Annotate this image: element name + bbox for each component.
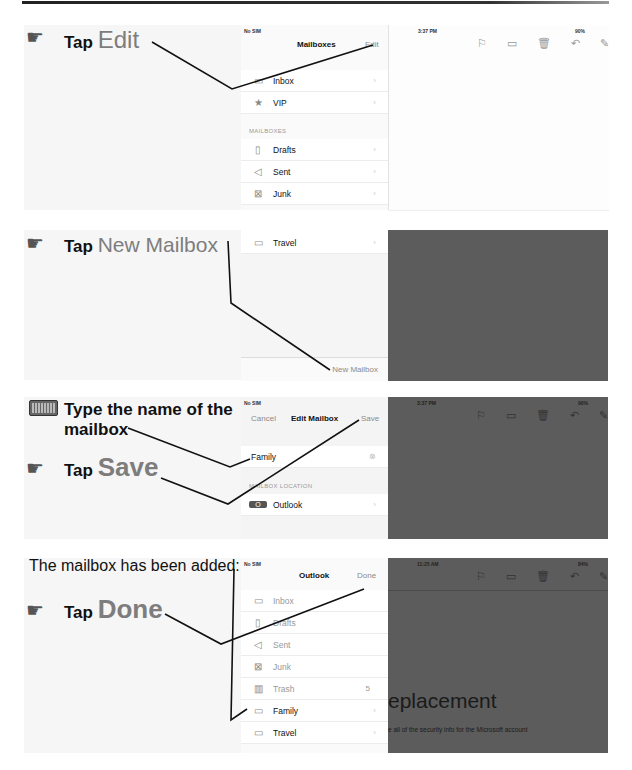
mailboxes-sidebar: No SIM Mailboxes Edit ▭Inbox› ★VIP› MAIL… [241, 25, 389, 210]
new-mailbox-button[interactable]: New Mailbox [332, 365, 378, 374]
inbox-icon: ▭ [249, 75, 267, 86]
outlook-icon: O [249, 501, 267, 508]
folder-icon[interactable]: ▭ [507, 37, 517, 50]
edit-button[interactable]: Edit [365, 40, 379, 49]
compose-icon[interactable]: ✎ [600, 37, 609, 50]
mailbox-row-junk[interactable]: ⊠Junk› [241, 183, 388, 205]
reply-icon: ↶ [570, 409, 579, 422]
dimmed-pane [388, 230, 608, 381]
sent-icon: ◁ [249, 166, 267, 177]
mailbox-row-inbox[interactable]: ▭Inbox [241, 590, 388, 612]
trash-icon: 🗑 [536, 409, 550, 422]
mailbox-row-drafts[interactable]: ▯Drafts› [241, 139, 388, 161]
save-button[interactable]: Save [361, 414, 379, 423]
chevron-right-icon: › [373, 189, 376, 198]
mailbox-row-travel[interactable]: ▭Travel› [241, 722, 388, 744]
step3-target: Save [98, 452, 159, 482]
drafts-icon: ▯ [249, 617, 267, 628]
keyboard-icon [29, 400, 58, 416]
step1-target: Edit [98, 26, 139, 53]
mailboxes-sidebar-edit: ▭Travel› New Mailbox [241, 232, 389, 380]
drafts-icon: ▯ [249, 144, 267, 155]
mailbox-row-sent[interactable]: ◁Sent› [241, 161, 388, 183]
flag-icon: ⚐ [476, 570, 486, 583]
mailbox-row-travel[interactable]: ▭Travel› [241, 232, 388, 254]
trash-count: 5 [366, 684, 370, 693]
mailbox-row-trash[interactable]: ▥Trash5 [241, 678, 388, 700]
trash-icon[interactable]: 🗑 [537, 37, 551, 50]
step4-instruction: Tap Done [64, 594, 163, 625]
mailbox-row-drafts[interactable]: ▯Drafts [241, 612, 388, 634]
bg-heading: eplacement [388, 689, 497, 713]
step4-panel [24, 558, 241, 753]
compose-icon: ✎ [599, 409, 608, 422]
mailbox-location-row[interactable]: OOutlook› [241, 494, 388, 516]
junk-icon: ⊠ [249, 661, 267, 672]
nav-title: Mailboxes [297, 40, 336, 49]
mailbox-row-family[interactable]: ▭Family› [241, 700, 388, 722]
pointing-hand-icon: ☛ [26, 598, 44, 622]
dimmed-pane: 3:37 PM 90% ⚐▭🗑↶✎ [388, 397, 608, 539]
step3-instruction-save: Tap Save [64, 452, 158, 483]
pointing-hand-icon: ☛ [26, 456, 44, 480]
mailbox-row-vip[interactable]: ★VIP› [241, 92, 388, 114]
compose-icon: ✎ [599, 570, 608, 583]
step1-instruction: Tap Edit [64, 26, 139, 54]
junk-icon: ⊠ [249, 188, 267, 199]
mailbox-row-inbox[interactable]: ▭Inbox› [241, 70, 388, 92]
dimmed-pane: 11:25 AM 84% ⚐▭🗑↶✎ eplacement e all of t… [388, 558, 608, 753]
flag-icon: ⚐ [476, 409, 486, 422]
chevron-right-icon: › [373, 145, 376, 154]
sent-icon: ◁ [249, 639, 267, 650]
chevron-right-icon: › [373, 728, 376, 737]
star-icon: ★ [249, 97, 267, 108]
chevron-right-icon: › [373, 238, 376, 247]
flag-icon[interactable]: ⚐ [477, 37, 487, 50]
mailbox-name-input[interactable]: Family⊗ [241, 446, 388, 468]
edit-mailbox-sheet: No SIM Cancel Edit Mailbox Save Family⊗ … [241, 397, 389, 539]
top-rule [22, 1, 609, 4]
folder-icon: ▭ [506, 570, 516, 583]
chevron-right-icon: › [373, 500, 376, 509]
step3-instruction-type: Type the name of the mailbox [64, 400, 233, 440]
step4-note: The mailbox has been added: [29, 557, 240, 575]
reply-icon: ↶ [570, 570, 579, 583]
pointing-hand-icon: ☛ [26, 231, 44, 255]
outlook-sidebar: No SIM Outlook Done ▭Inbox ▯Drafts ◁Sent… [241, 558, 389, 753]
step2-instruction: Tap New Mailbox [64, 233, 218, 257]
done-button[interactable]: Done [357, 571, 376, 580]
folder-icon: ▭ [249, 705, 267, 716]
chevron-right-icon: › [373, 98, 376, 107]
mailbox-row-sent[interactable]: ◁Sent [241, 634, 388, 656]
trash-icon: 🗑 [536, 570, 550, 583]
bottom-bar: New Mailbox [241, 357, 388, 381]
folder-icon: ▭ [249, 237, 267, 248]
step2-target: New Mailbox [98, 233, 218, 256]
reply-icon[interactable]: ↶ [571, 37, 580, 50]
mailbox-row-junk[interactable]: ⊠Junk [241, 656, 388, 678]
folder-icon: ▭ [249, 727, 267, 738]
clear-icon[interactable]: ⊗ [369, 452, 376, 461]
pointing-hand-icon: ☛ [26, 25, 44, 49]
bg-text: e all of the security info for the Micro… [388, 726, 527, 733]
chevron-right-icon: › [373, 167, 376, 176]
trash-icon: ▥ [249, 683, 267, 694]
chevron-right-icon: › [373, 706, 376, 715]
folder-icon: ▭ [506, 409, 516, 422]
step4-target: Done [98, 594, 163, 624]
inbox-icon: ▭ [249, 595, 267, 606]
chevron-right-icon: › [373, 76, 376, 85]
message-pane: 3:37 PM 90% ⚐▭🗑↶✎ [389, 25, 609, 211]
cancel-button[interactable]: Cancel [251, 414, 276, 423]
